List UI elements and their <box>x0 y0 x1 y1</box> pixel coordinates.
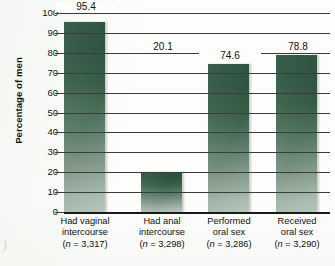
x-category-received-oral-sex: Received oral sex (n = 3,290) <box>255 216 335 250</box>
bar-chart-figure: ) Percentage of men 100 90 80 70 60 50 4… <box>0 0 335 266</box>
x-category-line-2: intercourse <box>43 227 127 238</box>
y-tick-label: 70 <box>0 68 58 78</box>
x-category-line-1: Had vaginal <box>43 216 127 227</box>
x-axis-category-labels: Had vaginal intercourse (n = 3,317) Had … <box>64 216 330 264</box>
bar-had-vaginal-intercourse <box>64 22 105 212</box>
y-tick-label: 30 <box>0 148 58 158</box>
x-category-line-2: oral sex <box>255 227 335 238</box>
gridline-30 <box>64 152 330 153</box>
gridline-40 <box>64 132 330 133</box>
gridline-10 <box>64 192 330 193</box>
bar-value-label: 78.8 <box>267 42 329 52</box>
x-category-had-vaginal-intercourse: Had vaginal intercourse (n = 3,317) <box>43 216 127 250</box>
y-tick-label: 80 <box>0 48 58 58</box>
y-tick-label: 50 <box>0 108 58 118</box>
gridline-70 <box>64 73 330 74</box>
bar-received-oral-sex <box>276 55 317 212</box>
x-category-sample-size: (n = 3,317) <box>43 239 127 250</box>
gridline-60 <box>64 93 330 94</box>
plot-area: 95.4 20.1 74.6 78.8 <box>64 13 330 212</box>
x-category-line-1: Received <box>255 216 335 227</box>
y-axis-tick-labels: 100 90 80 70 60 50 40 30 20 10 0 <box>0 13 58 212</box>
gridline-80 <box>64 53 330 54</box>
y-tick-label: 20 <box>0 167 58 177</box>
bar-value-label: 95.4 <box>55 2 117 12</box>
scan-artifact-paren: ) <box>2 236 7 253</box>
axis-baseline-0 <box>64 212 330 214</box>
y-tick-label: 90 <box>0 28 58 38</box>
gridline-90 <box>64 33 330 34</box>
gridline-50 <box>64 113 330 114</box>
bar-value-label: 20.1 <box>132 42 194 52</box>
y-tick-label: 10 <box>0 187 58 197</box>
x-category-sample-size: (n = 3,290) <box>255 239 335 250</box>
y-tick-label: 60 <box>0 88 58 98</box>
bar-value-label: 74.6 <box>199 51 261 61</box>
y-tick-label: 40 <box>0 128 58 138</box>
gridline-20 <box>64 172 330 173</box>
gridline-100 <box>64 13 330 14</box>
y-tick-label: 100 <box>0 8 58 18</box>
bar-performed-oral-sex <box>208 64 249 213</box>
